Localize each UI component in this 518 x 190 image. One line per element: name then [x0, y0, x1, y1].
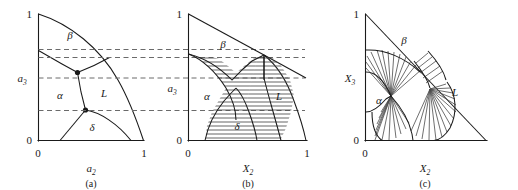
panel-c-phase-label-alpha: α: [376, 94, 382, 106]
panel-c-ylabel: X3: [344, 72, 356, 87]
panel-c-tielines-upper-left: [366, 50, 421, 96]
panel-a-xlabel: a2: [86, 162, 96, 177]
panel-a-beta-L-boundary: [78, 58, 110, 73]
panel-a-ylabel: a3: [17, 72, 27, 87]
panel-a-phase-label-delta: δ: [89, 121, 95, 133]
panel-b-phase-label-delta: δ: [234, 120, 240, 132]
panel-b-caption: (b): [242, 178, 254, 190]
panel-a-phase-label-beta: β: [66, 29, 73, 41]
panel-a-xtick-1: 1: [141, 147, 147, 159]
panel-b-xlabel: X2: [242, 162, 254, 177]
panel-b-phase-label-alpha: α: [204, 90, 210, 102]
panel-c-xlabel: X2: [419, 162, 431, 177]
panel-a-delta-left-boundary: [60, 110, 86, 141]
panel-c: 1 0 0 1 X3 X2 β α L (c): [344, 8, 490, 190]
panel-c-phase-label-beta: β: [400, 34, 407, 46]
panel-a-xtick-0: 0: [35, 147, 41, 159]
panel-a: 1 0 0 1 a3 a2 β α L δ (a): [17, 8, 146, 190]
panel-c-xtick-0: 0: [362, 147, 368, 159]
panel-b: 1 0 0 1 a3 X2 β α L δ (b): [167, 8, 310, 190]
panel-a-phase-label-L: L: [100, 87, 107, 99]
panel-c-ytick-0: 0: [354, 134, 360, 146]
panel-a-beta-alpha-boundary: [39, 51, 78, 73]
panel-b-xtick-1: 1: [304, 147, 310, 159]
panel-c-tielines-right: [411, 84, 456, 140]
panel-b-xtick-0: 0: [185, 147, 191, 159]
panel-c-tielines-upper-band: [416, 53, 443, 83]
phase-diagram-figure: 1 0 0 1 a3 a2 β α L δ (a): [0, 0, 518, 190]
panel-a-phase-label-alpha: α: [57, 89, 63, 101]
figure-container: 1 0 0 1 a3 a2 β α L δ (a): [0, 0, 518, 190]
panel-a-caption: (a): [85, 178, 96, 190]
panel-b-ylabel: a3: [167, 82, 177, 97]
panel-c-caption: (c): [419, 178, 430, 190]
panel-a-invariant-point-upper: [75, 70, 80, 75]
panel-c-phase-label-L: L: [451, 86, 458, 98]
panel-b-ytick-0: 0: [177, 134, 183, 146]
panel-b-phase-label-L: L: [275, 90, 282, 102]
panel-a-ytick-1: 1: [27, 8, 33, 20]
panel-c-ytick-1: 1: [354, 8, 360, 20]
panel-b-ytick-1: 1: [177, 8, 183, 20]
panel-b-phase-label-beta: β: [219, 38, 226, 50]
panel-a-ytick-0: 0: [27, 134, 33, 146]
